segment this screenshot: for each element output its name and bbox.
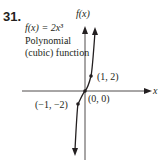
y-axis-arrow-icon <box>82 26 88 34</box>
x-axis-arrow-icon <box>144 88 152 94</box>
point-1-2 <box>89 74 93 78</box>
point-neg1-neg2 <box>76 102 80 106</box>
curve-arrow-down-icon <box>72 148 78 156</box>
cubic-graph <box>0 0 161 164</box>
point-0-0 <box>83 89 87 93</box>
curve-arrow-up-icon <box>92 27 98 35</box>
